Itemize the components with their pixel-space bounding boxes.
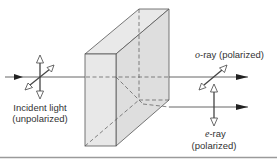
- e-ray-label-line2: (polarized): [192, 140, 237, 151]
- crystal-block: [85, 9, 169, 146]
- e-ray: [169, 104, 248, 110]
- incident-label-line1: Incident light: [13, 102, 67, 113]
- incident-label-line2: (unpolarized): [12, 113, 67, 124]
- e-ray-polarization-icon: [211, 84, 218, 126]
- incident-ray: [5, 74, 86, 80]
- o-ray: [169, 74, 248, 80]
- o-ray-label: o-ray (polarized): [195, 49, 264, 60]
- e-ray-label: e-ray: [205, 128, 226, 139]
- e-ray-label-text: -ray: [209, 128, 226, 139]
- birefringence-diagram: Incident light (unpolarized) o-ray (pola…: [0, 0, 277, 162]
- o-ray-label-text: -ray (polarized): [200, 49, 264, 60]
